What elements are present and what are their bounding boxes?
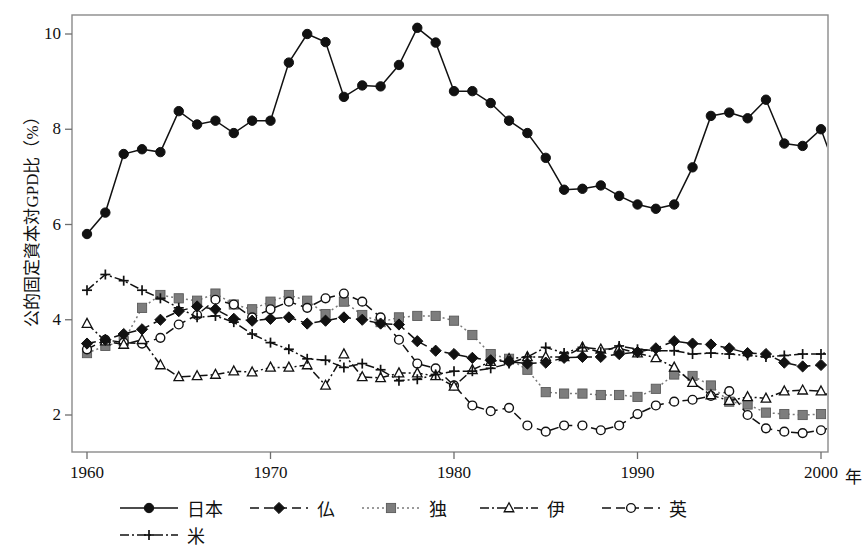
legend-item-uk[interactable]: 英: [600, 495, 687, 521]
x-tick-2000: 2000: [804, 463, 838, 483]
y-tick-6: 6: [28, 215, 61, 235]
y-tick-4: 4: [28, 310, 61, 330]
legend-swatch-uk: [600, 497, 662, 519]
x-tick-1970: 1970: [254, 463, 288, 483]
x-axis-unit-label: 年: [845, 463, 862, 488]
legend-label-france: 仏: [317, 495, 335, 521]
legend-label-japan: 日本: [187, 495, 223, 521]
legend-swatch-germany: [360, 497, 422, 519]
legend-item-japan[interactable]: 日本: [118, 495, 223, 521]
legend-label-germany: 独: [429, 495, 447, 521]
y-tick-10: 10: [28, 24, 61, 44]
x-tick-1960: 1960: [70, 463, 104, 483]
legend-item-italy[interactable]: 伊: [478, 495, 565, 521]
legend-item-usa[interactable]: 米: [118, 522, 205, 548]
x-tick-1980: 1980: [437, 463, 471, 483]
y-tick-2: 2: [28, 405, 61, 425]
legend-swatch-usa: [118, 524, 180, 546]
legend-swatch-france: [248, 497, 310, 519]
legend-swatch-italy: [478, 497, 540, 519]
legend-label-usa: 米: [187, 522, 205, 548]
legend-swatch-japan: [118, 497, 180, 519]
legend-item-france[interactable]: 仏: [248, 495, 335, 521]
legend-label-italy: 伊: [547, 495, 565, 521]
legend-item-germany[interactable]: 独: [360, 495, 447, 521]
legend-label-uk: 英: [669, 495, 687, 521]
y-tick-8: 8: [28, 119, 61, 139]
x-tick-1990: 1990: [621, 463, 655, 483]
